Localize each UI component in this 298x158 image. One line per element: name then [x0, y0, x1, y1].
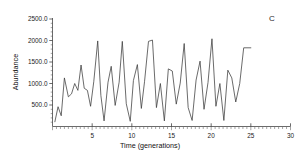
x-axis-title: Time (generations) — [120, 141, 180, 150]
data-series-line — [55, 39, 251, 122]
y-tick-label: 2500.0 — [28, 15, 48, 22]
x-tick-label: 20 — [208, 132, 216, 139]
y-axis-title: Abundance — [11, 54, 20, 90]
x-tick-label: 25 — [247, 132, 255, 139]
chart-render-group: 500.01000.01500.02000.02500.051015202530 — [28, 15, 295, 138]
figure-panel: 500.01000.01500.02000.02500.051015202530… — [0, 0, 298, 158]
y-tick-label: 1000.0 — [28, 80, 48, 87]
y-tick-label: 1500.0 — [28, 58, 48, 65]
y-tick-label: 500.0 — [32, 101, 48, 108]
x-tick-label: 5 — [90, 132, 94, 139]
abundance-line-chart: 500.01000.01500.02000.02500.051015202530… — [0, 0, 298, 158]
y-tick-label: 2000.0 — [28, 37, 48, 44]
x-tick-label: 15 — [168, 132, 176, 139]
panel-label: C — [269, 14, 275, 23]
x-tick-label: 30 — [287, 132, 295, 139]
x-tick-label: 10 — [128, 132, 136, 139]
